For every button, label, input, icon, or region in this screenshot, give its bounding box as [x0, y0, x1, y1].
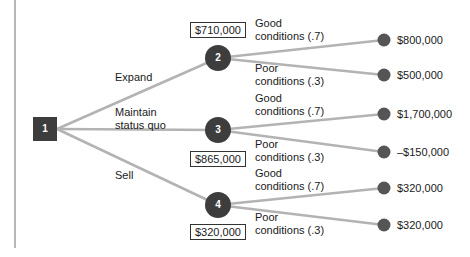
outcome-label: Poor: [255, 62, 278, 75]
decision-node-label: 1: [33, 123, 57, 134]
outcome-label: conditions (.7): [255, 105, 324, 118]
outcome-label: conditions (.7): [255, 180, 324, 193]
outcome-label: Good: [255, 92, 282, 105]
payoff-value: $320,000: [397, 182, 443, 195]
branch-label-maintain-line1: Maintain: [115, 106, 157, 119]
end-node: [378, 219, 391, 232]
branch-label-maintain-line2: status quo: [115, 119, 166, 132]
expected-value-box-4: $320,000: [190, 224, 246, 240]
outcome-label: Poor: [255, 211, 278, 224]
edge-sell: [57, 129, 218, 205]
edge-2-poor: [218, 58, 384, 75]
branch-label-sell: Sell: [115, 169, 133, 182]
payoff-value: –$150,000: [397, 146, 449, 159]
end-node: [378, 146, 391, 159]
end-node: [378, 182, 391, 195]
chance-node-4-label: 4: [205, 199, 231, 210]
payoff-value: $1,700,000: [397, 108, 452, 121]
expected-value-box-2: $710,000: [190, 22, 246, 38]
outcome-label: conditions (.7): [255, 30, 324, 43]
expected-value-box-3: $865,000: [190, 151, 246, 167]
end-node: [378, 108, 391, 121]
payoff-value: $320,000: [397, 219, 443, 232]
edge-4-poor: [218, 205, 384, 225]
outcome-label: Good: [255, 17, 282, 30]
outcome-label: conditions (.3): [255, 224, 324, 237]
payoff-value: $800,000: [397, 34, 443, 47]
chance-node-2-label: 2: [205, 52, 231, 63]
outcome-label: Good: [255, 167, 282, 180]
outcome-label: conditions (.3): [255, 75, 324, 88]
chance-node-3-label: 3: [205, 124, 231, 135]
end-node: [378, 69, 391, 82]
edge-3-poor: [218, 130, 384, 152]
outcome-label: conditions (.3): [255, 151, 324, 164]
branch-label-expand: Expand: [115, 71, 152, 84]
outcome-label: Poor: [255, 138, 278, 151]
payoff-value: $500,000: [397, 69, 443, 82]
end-node: [378, 34, 391, 47]
